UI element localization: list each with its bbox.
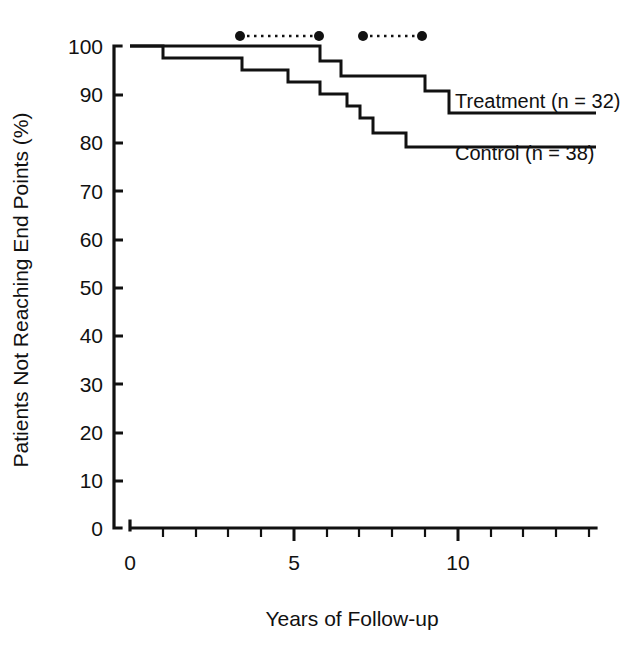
y-axis-tick-labels: 100 90 80 70 60 50 40 30 20 10 0 xyxy=(68,35,103,540)
x-tick-label: 0 xyxy=(124,551,136,574)
y-tick-label: 60 xyxy=(80,228,103,251)
y-tick-label: 80 xyxy=(80,131,103,154)
bracket-dot-icon xyxy=(358,31,368,41)
x-tick-label: 5 xyxy=(288,551,300,574)
y-tick-label: 90 xyxy=(80,83,103,106)
y-axis-title: Patients Not Reaching End Points (%) xyxy=(9,113,32,468)
y-tick-label: 0 xyxy=(91,517,103,540)
x-axis-spine xyxy=(130,521,596,530)
y-tick-label: 30 xyxy=(80,373,103,396)
control-series-label: Control (n = 38) xyxy=(455,142,595,164)
comparison-bracket-1 xyxy=(235,31,324,41)
y-tick-label: 50 xyxy=(80,276,103,299)
x-axis-ticks xyxy=(163,528,589,541)
bracket-dot-icon xyxy=(417,31,427,41)
bracket-dot-icon xyxy=(314,31,324,41)
comparison-bracket-2 xyxy=(358,31,427,41)
kaplan-meier-chart: Patients Not Reaching End Points (%) 100… xyxy=(0,0,620,653)
x-tick-label: 10 xyxy=(446,551,469,574)
x-axis-title: Years of Follow-up xyxy=(265,607,438,630)
bracket-dot-icon xyxy=(235,31,245,41)
y-tick-label: 10 xyxy=(80,469,103,492)
y-tick-label: 70 xyxy=(80,180,103,203)
y-tick-label: 20 xyxy=(80,421,103,444)
survival-curve-figure: Patients Not Reaching End Points (%) 100… xyxy=(0,0,620,653)
y-tick-label: 100 xyxy=(68,35,103,58)
x-axis-tick-labels: 0 5 10 xyxy=(124,551,470,574)
y-tick-label: 40 xyxy=(80,324,103,347)
treatment-series-label: Treatment (n = 32) xyxy=(455,90,620,112)
